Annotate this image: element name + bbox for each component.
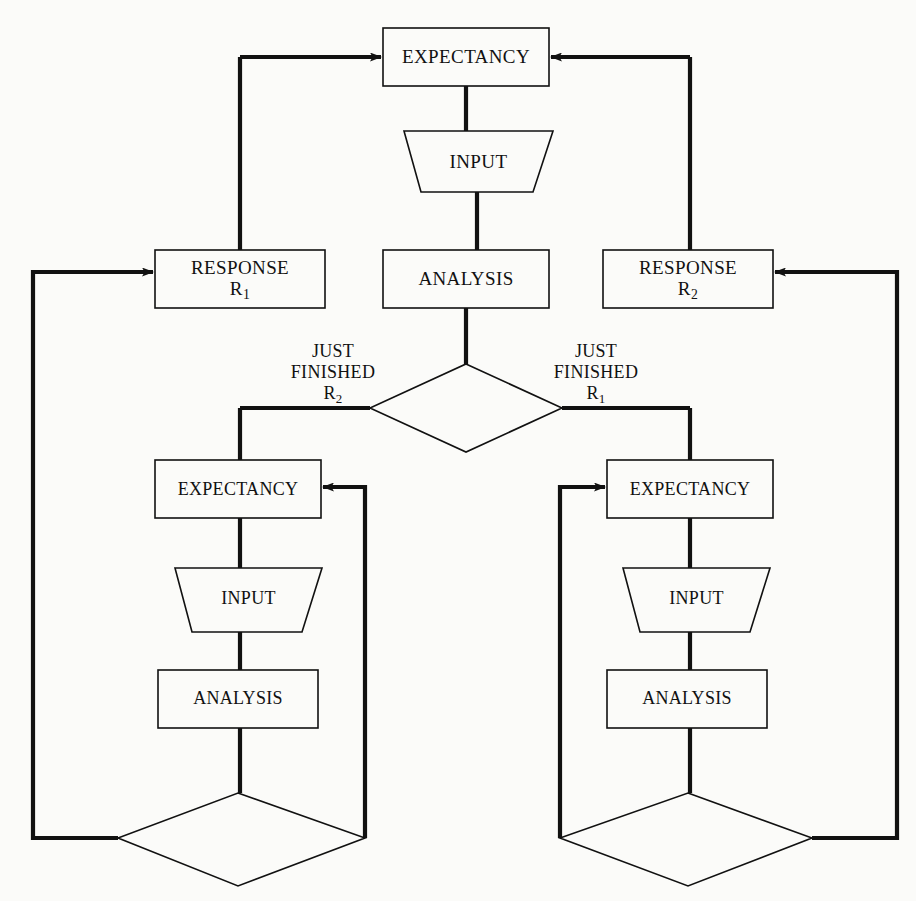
edge-label-just-finished-r1-subscript: 1	[599, 391, 606, 406]
arrow-left-decision-to-response-r1	[33, 272, 153, 838]
edge-label-just-finished-r1-line2: FINISHED	[554, 362, 638, 382]
edge-label-just-finished-r1-line1: JUST	[575, 341, 617, 361]
shape-left-decision	[118, 793, 365, 886]
edge-label-just-finished-r2-symbol: R	[323, 383, 335, 403]
flowchart-vector-layer	[0, 0, 916, 901]
shape-top-input	[404, 131, 553, 192]
shape-response-r2	[603, 250, 773, 308]
shape-left-expectancy	[155, 460, 321, 518]
shape-response-r1	[155, 250, 325, 308]
shape-right-analysis	[607, 670, 767, 728]
arrow-right-decision-to-response-r2	[775, 272, 897, 838]
arrow-right-decision-to-right-expectancy	[560, 487, 605, 838]
edge-label-just-finished-r1-symbol: R	[586, 383, 598, 403]
shape-center-decision	[370, 364, 562, 452]
shape-right-input	[623, 568, 770, 632]
edge-label-just-finished-r1: JUST FINISHED R1	[541, 341, 651, 406]
edge-label-just-finished-r2-subscript: 2	[336, 391, 343, 406]
shape-top-expectancy	[383, 28, 549, 86]
edge-label-just-finished-r2: JUST FINISHED R2	[278, 341, 388, 406]
arrow-left-decision-to-left-expectancy	[323, 487, 365, 838]
edge-label-just-finished-r2-line2: FINISHED	[291, 362, 375, 382]
shape-top-analysis	[383, 250, 549, 308]
flowchart-canvas: EXPECTANCY INPUT ANALYSIS RESPONSE R1 RE…	[0, 0, 916, 901]
shape-right-expectancy	[607, 460, 773, 518]
edge-label-just-finished-r2-line1: JUST	[312, 341, 354, 361]
shape-left-input	[175, 568, 322, 632]
shape-left-analysis	[158, 670, 318, 728]
shape-right-decision	[560, 793, 812, 886]
